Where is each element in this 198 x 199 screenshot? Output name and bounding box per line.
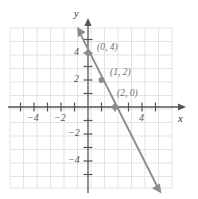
x-axis-arrow (178, 103, 186, 110)
x-tick-label-4: 4 (139, 113, 144, 123)
plot-point-0-4 (85, 50, 91, 56)
coordinate-plane-svg (0, 0, 198, 199)
point-label-1-2: (1, 2) (110, 68, 131, 78)
graph-figure: (0, 4) (1, 2) (2, 0) −4 −2 4 4 2 −2 −4 x… (0, 0, 198, 199)
plot-point-1-2 (99, 77, 105, 83)
y-tick-label--2: −2 (68, 128, 80, 138)
plot-point-2-0 (112, 104, 118, 110)
point-label-2-0: (2, 0) (117, 89, 138, 99)
y-tick-label-2: 2 (74, 74, 79, 84)
point-label-0-4: (0, 4) (97, 43, 118, 53)
x-tick-label--4: −4 (27, 113, 39, 123)
x-axis-label: x (178, 114, 183, 125)
x-tick-label--2: −2 (54, 113, 66, 123)
y-tick-label-4: 4 (74, 47, 79, 57)
y-axis-label: y (74, 9, 79, 20)
y-tick-label--4: −4 (68, 155, 80, 165)
y-axis-arrow (84, 18, 91, 26)
